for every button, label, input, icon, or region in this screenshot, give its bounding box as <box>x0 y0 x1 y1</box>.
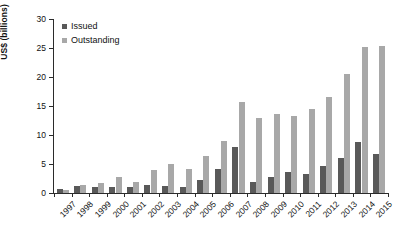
x-tick-mark <box>54 193 55 197</box>
legend-item-outstanding: Outstanding <box>62 35 120 46</box>
x-tick-mark <box>195 193 196 197</box>
x-tick-mark <box>283 193 284 197</box>
x-tick-mark <box>300 193 301 197</box>
bar-issued-2012 <box>320 166 326 193</box>
y-tick-label: 25 <box>24 44 46 52</box>
bar-outstanding-2014 <box>362 47 368 193</box>
bar-issued-2014 <box>355 142 361 193</box>
x-tick-label-2014: 2014 <box>356 199 376 219</box>
chart-legend: Issued Outstanding <box>62 21 120 49</box>
bar-issued-2007 <box>232 147 238 193</box>
x-tick-label-2009: 2009 <box>268 199 288 219</box>
bar-outstanding-2005 <box>203 156 209 193</box>
bar-group <box>197 19 209 193</box>
y-tick-label: 10 <box>24 131 46 139</box>
x-tick-mark <box>89 193 90 197</box>
x-tick-mark <box>370 193 371 197</box>
x-tick-mark <box>107 193 108 197</box>
bar-outstanding-2012 <box>326 97 332 193</box>
x-tick-mark <box>159 193 160 197</box>
x-tick-label-1997: 1997 <box>57 199 77 219</box>
bar-outstanding-2006 <box>221 141 227 193</box>
bar-issued-2008 <box>250 182 256 193</box>
x-tick-label-1999: 1999 <box>92 199 112 219</box>
bar-issued-2005 <box>197 180 203 193</box>
x-tick-label-2000: 2000 <box>110 199 130 219</box>
bar-group <box>268 19 280 193</box>
x-tick-label-2013: 2013 <box>339 199 359 219</box>
x-tick-label-2002: 2002 <box>145 199 165 219</box>
bar-outstanding-2013 <box>344 74 350 193</box>
bar-outstanding-1997 <box>63 190 69 193</box>
x-tick-mark <box>318 193 319 197</box>
bar-outstanding-2010 <box>291 116 297 193</box>
bar-issued-2003 <box>162 186 168 193</box>
bar-outstanding-2015 <box>379 46 385 193</box>
y-tick-label: 30 <box>24 15 46 23</box>
x-tick-label-2012: 2012 <box>321 199 341 219</box>
bar-outstanding-2009 <box>274 114 280 193</box>
legend-item-issued: Issued <box>62 21 120 32</box>
bar-issued-2002 <box>144 185 150 193</box>
bar-outstanding-2008 <box>256 118 262 193</box>
bar-group <box>127 19 139 193</box>
x-tick-mark <box>230 193 231 197</box>
bar-group <box>232 19 244 193</box>
bar-outstanding-2003 <box>168 164 174 193</box>
outstanding-swatch <box>62 38 67 43</box>
bar-issued-1997 <box>57 189 63 193</box>
x-tick-mark <box>247 193 248 197</box>
x-tick-label-2003: 2003 <box>163 199 183 219</box>
bar-group <box>320 19 332 193</box>
x-tick-mark <box>353 193 354 197</box>
bar-issued-2006 <box>215 169 221 193</box>
x-tick-label-2001: 2001 <box>128 199 148 219</box>
x-tick-label-2004: 2004 <box>180 199 200 219</box>
y-tick-label: 15 <box>24 102 46 110</box>
bar-outstanding-2011 <box>309 109 315 193</box>
bar-group <box>355 19 367 193</box>
y-tick-label: 20 <box>24 73 46 81</box>
legend-label-outstanding: Outstanding <box>71 36 120 45</box>
bar-issued-2004 <box>180 187 186 193</box>
legend-label-issued: Issued <box>71 22 98 31</box>
bar-group <box>180 19 192 193</box>
x-tick-label-1998: 1998 <box>75 199 95 219</box>
x-tick-mark <box>72 193 73 197</box>
x-tick-label-2010: 2010 <box>286 199 306 219</box>
issued-swatch <box>62 24 67 29</box>
bar-outstanding-2002 <box>151 170 157 193</box>
x-tick-mark <box>265 193 266 197</box>
x-tick-mark <box>212 193 213 197</box>
y-tick-label: 0 <box>24 189 46 197</box>
bar-issued-2015 <box>373 154 379 193</box>
bar-group <box>162 19 174 193</box>
bar-issued-2000 <box>109 187 115 193</box>
bar-outstanding-2000 <box>116 177 122 193</box>
bar-group <box>303 19 315 193</box>
bar-outstanding-1998 <box>80 185 86 193</box>
bar-issued-2009 <box>268 177 274 193</box>
bar-group <box>338 19 350 193</box>
bar-group <box>144 19 156 193</box>
x-tick-mark <box>142 193 143 197</box>
x-axis-line <box>53 193 388 194</box>
bar-issued-2001 <box>127 187 133 193</box>
bar-outstanding-2007 <box>239 102 245 193</box>
y-tick-label: 5 <box>24 160 46 168</box>
bar-outstanding-1999 <box>98 183 104 193</box>
bar-issued-2010 <box>285 172 291 193</box>
bar-issued-1998 <box>74 186 80 193</box>
bar-outstanding-2004 <box>186 169 192 193</box>
y-axis-title: US$ (billions) <box>0 0 9 92</box>
bar-issued-1999 <box>92 187 98 193</box>
bar-group <box>215 19 227 193</box>
x-tick-mark <box>388 193 389 197</box>
x-tick-label-2005: 2005 <box>198 199 218 219</box>
x-tick-label-2015: 2015 <box>374 199 393 219</box>
x-tick-label-2007: 2007 <box>233 199 253 219</box>
bar-chart: US$ (billions) 051015202530 199719981999… <box>0 0 393 243</box>
x-tick-label-2006: 2006 <box>216 199 236 219</box>
x-tick-mark <box>177 193 178 197</box>
bar-group <box>373 19 385 193</box>
